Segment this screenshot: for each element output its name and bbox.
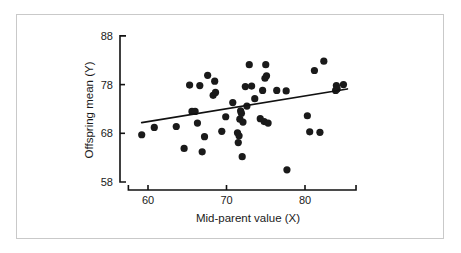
data-point [222,113,229,120]
data-point [248,82,255,89]
data-point [242,83,249,90]
y-axis: 58687888 Offspring mean (Y) [83,30,126,188]
data-point [186,81,193,88]
data-point [239,119,246,126]
data-point [204,72,211,79]
x-axis: 607080 Mid-parent value (X) [128,185,356,224]
data-point [196,82,203,89]
data-point [283,166,290,173]
data-point [340,81,347,88]
x-tick-label-70: 70 [220,194,232,206]
data-point [235,132,242,139]
data-point [194,119,201,126]
data-point [320,58,327,65]
data-point [201,133,208,140]
data-point [283,87,290,94]
data-point [181,145,188,152]
data-point [235,139,242,146]
data-point [173,123,180,130]
figure-root: 58687888 Offspring mean (Y) 607080 Mid-p… [0,0,461,253]
y-tick-label-68: 68 [101,127,113,139]
x-tick-label-60: 60 [142,194,154,206]
data-point [199,148,206,155]
data-point [138,131,145,138]
x-axis-tick-labels: 607080 [142,194,311,206]
data-point [262,61,269,68]
data-point [239,153,246,160]
y-axis-title: Offspring mean (Y) [83,61,95,158]
y-axis-tick-labels: 58687888 [101,30,113,188]
data-point [273,87,280,94]
data-point [306,128,313,135]
data-point [246,61,253,68]
data-point [229,99,236,106]
data-point [218,128,225,135]
data-point [316,129,323,136]
data-point [251,95,258,102]
y-tick-label-58: 58 [101,176,113,188]
x-tick-label-80: 80 [299,194,311,206]
data-point [259,87,266,94]
x-axis-title: Mid-parent value (X) [196,212,300,224]
scatter-plot: 58687888 Offspring mean (Y) 607080 Mid-p… [0,0,461,253]
y-tick-label-88: 88 [101,30,113,42]
y-axis-spine [120,36,126,182]
data-point [263,72,270,79]
data-point [212,89,219,96]
x-axis-spine [128,185,356,190]
regression-line [142,89,348,123]
data-point [211,78,218,85]
data-point [265,119,272,126]
data-point [151,124,158,131]
data-point [238,110,245,117]
data-point [311,67,318,74]
y-tick-label-78: 78 [101,79,113,91]
data-point-group [138,58,347,174]
data-point [304,112,311,119]
